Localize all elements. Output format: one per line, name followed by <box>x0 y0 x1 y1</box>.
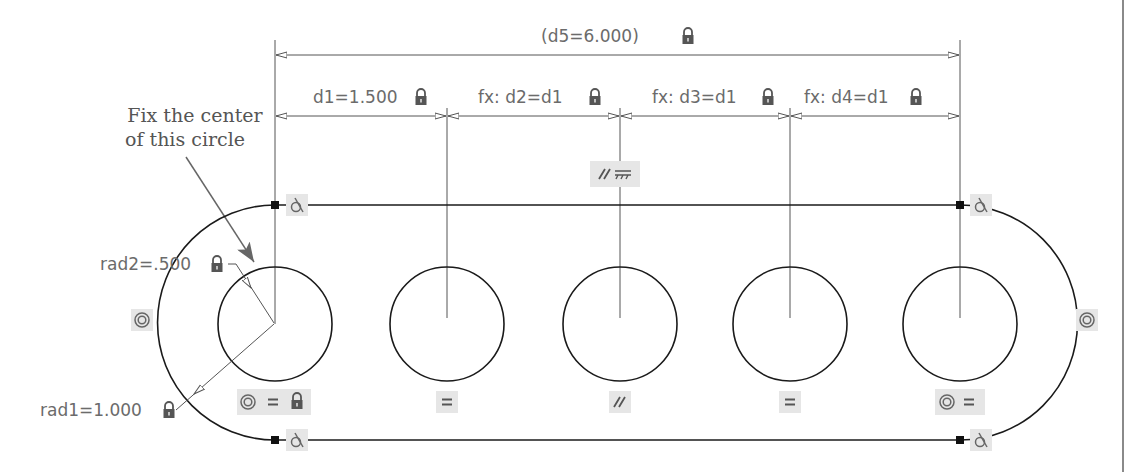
dimension-d5[interactable]: (d5=6.000) <box>276 26 959 55</box>
concentric-icon[interactable] <box>1076 309 1098 331</box>
dimension-rad1-label[interactable]: rad1=1.000 <box>40 400 142 420</box>
lock-icon <box>416 89 427 105</box>
lock-icon <box>911 89 922 105</box>
dimension-d2-label[interactable]: fx: d2=d1 <box>478 87 563 107</box>
equal-icon[interactable] <box>779 391 801 413</box>
lock-icon <box>683 28 694 44</box>
parallel-icon[interactable] <box>609 391 631 413</box>
tangent-icon[interactable] <box>286 429 308 451</box>
concentric-icon[interactable] <box>131 309 153 331</box>
dimension-d1-label[interactable]: d1=1.500 <box>313 87 398 107</box>
horizontal-parallel-badge[interactable] <box>590 161 640 187</box>
dimension-d1[interactable]: d1=1.500 <box>276 87 446 116</box>
tangent-icon[interactable] <box>286 194 308 216</box>
endpoint-grip <box>956 201 964 209</box>
sketch-canvas: (d5=6.000) d1=1.500 fx: d2=d1 fx: d3=d1 … <box>0 0 1135 472</box>
annotation-line-2: of this circle <box>125 128 245 150</box>
dimension-rad2[interactable]: rad2=.500 <box>100 254 274 323</box>
lock-icon <box>590 89 601 105</box>
dimension-d4[interactable]: fx: d4=d1 <box>791 87 959 116</box>
circle-5-constraints[interactable] <box>935 389 985 415</box>
annotation-callout: Fix the center of this circle <box>125 104 264 262</box>
equal-icon[interactable] <box>436 391 458 413</box>
dimension-d3-label[interactable]: fx: d3=d1 <box>652 87 737 107</box>
endpoint-grip <box>956 436 964 444</box>
dimension-d4-label[interactable]: fx: d4=d1 <box>804 87 889 107</box>
annotation-line-1: Fix the center <box>127 104 263 126</box>
lock-icon <box>212 256 223 272</box>
hole-circles[interactable] <box>218 267 1017 381</box>
endpoint-grip <box>271 436 279 444</box>
lock-icon <box>164 402 175 418</box>
dimension-d3[interactable]: fx: d3=d1 <box>621 87 789 116</box>
dimension-d5-label[interactable]: (d5=6.000) <box>541 26 639 46</box>
dimension-rad2-label[interactable]: rad2=.500 <box>100 254 191 274</box>
circle-1-constraints[interactable] <box>237 389 311 415</box>
lock-icon <box>763 89 774 105</box>
tangent-icon[interactable] <box>970 429 992 451</box>
dimension-d2[interactable]: fx: d2=d1 <box>448 87 619 116</box>
tangent-icon[interactable] <box>970 194 992 216</box>
endpoint-grip <box>271 201 279 209</box>
